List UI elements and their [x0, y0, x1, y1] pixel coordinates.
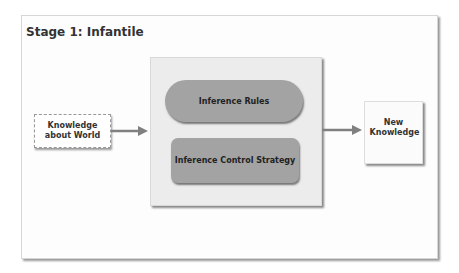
arrows-layer	[0, 0, 459, 273]
arrow-input-to-engine	[111, 126, 148, 136]
arrow-engine-to-output	[322, 125, 362, 135]
